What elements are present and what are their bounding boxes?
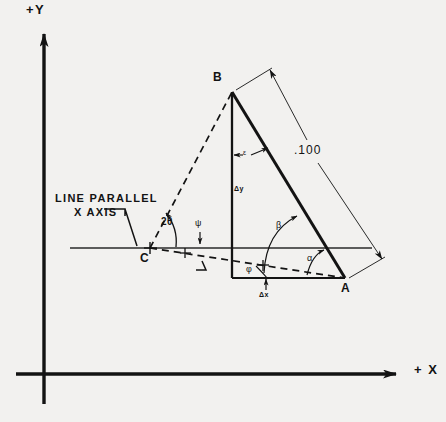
diagram-page: +Y + X LINE PARALLEL X AXIS B A C .100 2… <box>0 0 446 422</box>
dimension-line-upper <box>270 70 307 140</box>
triangle-hypotenuse-BA <box>232 92 345 278</box>
angle-label-psi: ψ <box>195 218 201 229</box>
angle-epsilon-arrows <box>234 148 268 155</box>
angle-label-beta: β <box>276 220 281 231</box>
dimension-100 <box>236 68 385 278</box>
dimension-label-100: .100 <box>294 143 321 158</box>
parallel-note-line-1: LINE PARALLEL <box>55 192 158 206</box>
right-angle-mark <box>232 268 242 278</box>
delta-y-label: Δy <box>234 185 244 194</box>
vertex-label-C: C <box>140 251 149 266</box>
main-triangle <box>232 92 345 278</box>
y-axis-label: +Y <box>26 2 45 18</box>
angle-label-phi: φ <box>246 264 252 275</box>
vertex-label-B: B <box>213 70 222 85</box>
delta-x-label: Δx <box>259 291 269 300</box>
angle-label-alpha: α <box>307 253 312 264</box>
parallel-line-flag-leader <box>196 261 206 270</box>
x-axis-label: + X <box>414 362 438 378</box>
parallel-note-line-2: X AXIS <box>74 206 117 220</box>
angle-label-epsilon: ε <box>243 149 246 158</box>
extension-line-A <box>349 257 385 278</box>
dimension-line-lower <box>318 163 382 259</box>
axis-group <box>16 34 396 404</box>
angle-label-two-theta: 2θ <box>161 216 173 229</box>
extension-line-B <box>236 68 272 90</box>
vertex-label-A: A <box>341 281 350 296</box>
epsilon-arrow-right <box>251 148 268 155</box>
geometry-diagram-canvas <box>0 0 446 422</box>
